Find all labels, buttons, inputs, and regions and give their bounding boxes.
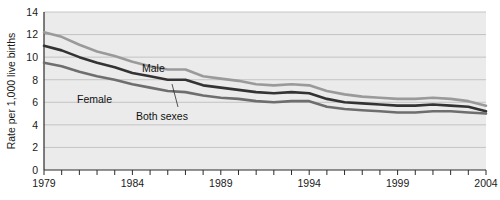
x-tick-label: 1979 (32, 177, 56, 189)
x-axis-tick-marks (44, 170, 486, 175)
x-tick-label: 1989 (209, 177, 233, 189)
y-axis-title: Rate per 1,000 live births (5, 33, 17, 150)
x-tick-label: 2004 (474, 177, 498, 189)
y-axis-tick-labels: 02468101214 (26, 6, 38, 176)
x-tick-label: 1994 (298, 177, 322, 189)
annotation-female: Female (77, 93, 112, 105)
annotation-female-label: Female (77, 93, 112, 105)
x-tick-label: 1999 (386, 177, 410, 189)
y-tick-label: 6 (32, 96, 38, 108)
plot-background (44, 12, 486, 170)
chart-canvas: 02468101214 197919841989199419992004 Mal… (0, 0, 500, 200)
y-tick-label: 10 (26, 51, 38, 63)
line-chart-figure: 02468101214 197919841989199419992004 Mal… (0, 0, 500, 200)
y-tick-label: 2 (32, 141, 38, 153)
y-tick-label: 4 (32, 119, 38, 131)
y-tick-label: 14 (26, 6, 38, 18)
annotation-both-sexes-label: Both sexes (136, 110, 188, 122)
y-tick-label: 12 (26, 28, 38, 40)
y-tick-label: 8 (32, 74, 38, 86)
annotation-male-label: Male (142, 62, 165, 74)
x-axis-tick-labels: 197919841989199419992004 (32, 177, 498, 189)
y-tick-label: 0 (32, 164, 38, 176)
x-tick-label: 1984 (121, 177, 145, 189)
annotation-male: Male (142, 62, 165, 74)
